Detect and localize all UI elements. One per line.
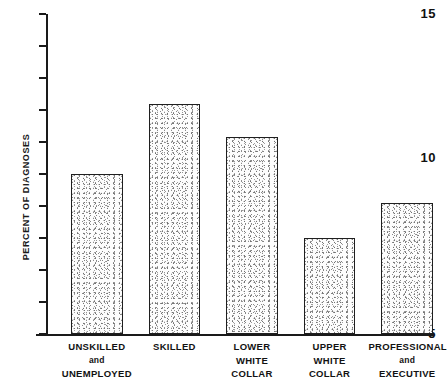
y-axis-tick — [39, 109, 46, 110]
category-line: UPPER — [291, 340, 369, 354]
y-axis-tick — [39, 205, 46, 206]
y-axis-tick — [39, 13, 46, 14]
x-axis-category-label: UNSKILLEDandUNEMPLOYED — [58, 340, 136, 381]
x-axis-line — [36, 334, 434, 336]
y-axis-tick — [39, 237, 46, 238]
category-line: WHITE — [291, 354, 369, 368]
bar — [381, 203, 433, 334]
y-axis-tick — [39, 173, 46, 174]
category-line: and — [368, 354, 446, 368]
category-line: UNSKILLED — [58, 340, 136, 354]
x-axis-category-label: UPPERWHITECOLLAR — [291, 340, 369, 381]
y-axis-tick — [39, 269, 46, 270]
category-line: LOWER — [213, 340, 291, 354]
x-axis-category-label: LOWERWHITECOLLAR — [213, 340, 291, 381]
y-axis-tick — [39, 301, 46, 302]
y-axis-tick — [39, 141, 46, 142]
plot-area — [46, 14, 434, 334]
category-line: COLLAR — [213, 367, 291, 381]
category-line: WHITE — [213, 354, 291, 368]
bar — [304, 238, 356, 334]
x-axis-category-label: PROFESSIONALandEXECUTIVE — [368, 340, 446, 381]
y-axis-tick — [39, 333, 46, 334]
bar — [149, 104, 201, 334]
x-axis-category-labels: UNSKILLEDandUNEMPLOYEDSKILLEDLOWERWHITEC… — [46, 340, 434, 384]
category-line: and — [58, 354, 136, 368]
bar — [71, 174, 123, 334]
category-line: SKILLED — [136, 340, 214, 354]
y-axis-tick — [39, 45, 46, 46]
category-line: EXECUTIVE — [368, 367, 446, 381]
y-axis-title: PERCENT OF DIAGNOSES — [21, 117, 31, 277]
bar-series — [46, 14, 434, 334]
y-axis-tick — [39, 77, 46, 78]
category-line: PROFESSIONAL — [368, 340, 446, 354]
category-line: UNEMPLOYED — [58, 367, 136, 381]
bar — [226, 137, 278, 334]
x-axis-category-label: SKILLED — [136, 340, 214, 354]
category-line: COLLAR — [291, 367, 369, 381]
